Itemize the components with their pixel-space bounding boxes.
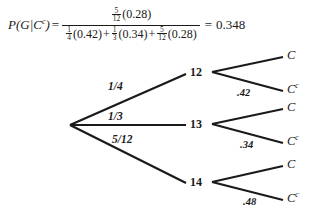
second-level-probability-42: .42 <box>237 87 250 98</box>
leaf-label-12-c-complement-superscript: c <box>295 81 298 90</box>
probability-tree-figure: P(G|Cc) = 512(0.28) 14(0.42)+13(0.34)+51… <box>0 0 320 215</box>
second-level-probability-48: .48 <box>243 196 256 207</box>
edge-node-14-to-leaf-c <box>212 166 283 182</box>
leaf-label-14-c: C <box>287 157 295 172</box>
leaf-label-12-c-complement: Cc <box>287 82 299 97</box>
tree-edges <box>0 0 320 215</box>
leaf-label-13-c-complement: Cc <box>287 134 299 149</box>
branch-probability-label-2: 1/3 <box>108 110 123 122</box>
tree-node-13: 13 <box>190 117 202 132</box>
leaf-label-13-c-text: C <box>287 100 295 114</box>
leaf-label-12-c: C <box>287 48 295 63</box>
branch-probability-label-1: 1/4 <box>108 80 123 92</box>
leaf-label-12-c-text: C <box>287 48 295 62</box>
leaf-label-13-c: C <box>287 100 295 115</box>
leaf-label-14-c-text: C <box>287 157 295 171</box>
edge-node-13-to-leaf-c <box>212 109 283 124</box>
tree-node-12: 12 <box>190 65 202 80</box>
edge-root-to-node-12 <box>70 74 186 125</box>
branch-probability-label-3: 5/12 <box>112 133 132 145</box>
leaf-label-14-c-complement: Cc <box>287 191 299 206</box>
leaf-label-14-c-complement-superscript: c <box>295 190 298 199</box>
tree-node-14: 14 <box>190 175 202 190</box>
leaf-label-13-c-complement-superscript: c <box>295 133 298 142</box>
edge-node-12-to-leaf-c <box>212 57 283 72</box>
second-level-probability-34: .34 <box>240 139 253 150</box>
